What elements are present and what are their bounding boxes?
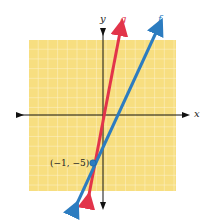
x-axis-label: x	[194, 109, 200, 119]
graph	[0, 0, 212, 220]
line-g-label: g	[120, 14, 126, 24]
point-label: (−1, −5)	[50, 158, 89, 168]
intersection-point	[90, 160, 96, 166]
line-f-label: f	[158, 14, 162, 24]
y-axis-label: y	[100, 14, 106, 24]
